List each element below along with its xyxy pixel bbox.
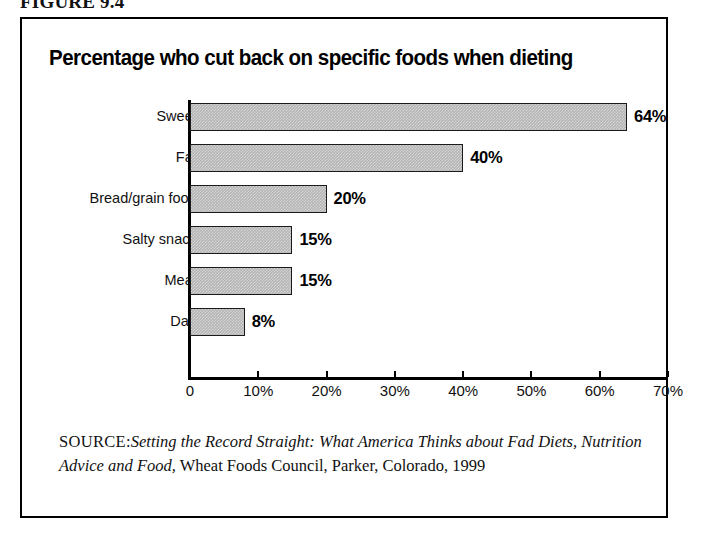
bar-value-label: 15% xyxy=(299,230,331,249)
x-axis-tick-label: 0 xyxy=(186,382,194,399)
bar xyxy=(190,267,292,295)
category-label: Sweets xyxy=(0,108,204,124)
bar-value-label: 8% xyxy=(252,312,275,331)
x-axis-tick-label: 20% xyxy=(312,382,342,399)
x-axis-tick xyxy=(394,371,396,377)
bar-value-label: 15% xyxy=(299,271,331,290)
x-axis-tick-label: 60% xyxy=(585,382,615,399)
bar-chart-plot-area: SweetsFatsBread/grain foodsSalty snacksM… xyxy=(22,86,666,396)
figure-frame: Percentage who cut back on specific food… xyxy=(20,17,668,518)
x-axis-tick xyxy=(530,371,532,377)
chart-title: Percentage who cut back on specific food… xyxy=(49,46,612,71)
x-axis-tick xyxy=(257,371,259,377)
x-axis-tick-label: 70% xyxy=(653,382,683,399)
bar xyxy=(190,185,327,213)
x-axis-tick-label: 30% xyxy=(380,382,410,399)
bar xyxy=(190,144,463,172)
bar xyxy=(190,103,627,131)
x-axis-tick xyxy=(462,371,464,377)
category-label: Bread/grain foods xyxy=(0,190,204,206)
bar-value-label: 20% xyxy=(334,189,366,208)
category-label: Dairy xyxy=(0,313,204,329)
bar xyxy=(190,308,245,336)
x-axis-tick-label: 50% xyxy=(516,382,546,399)
figure-number: FIGURE 9.4 xyxy=(20,0,124,13)
x-axis-tick-label: 40% xyxy=(448,382,478,399)
x-axis-tick-label: 10% xyxy=(243,382,273,399)
bar xyxy=(190,226,292,254)
bar-value-label: 64% xyxy=(634,107,666,126)
x-axis-tick xyxy=(189,371,191,377)
bar-value-label: 40% xyxy=(470,148,502,167)
x-axis-line xyxy=(188,377,666,380)
source-label: SOURCE: xyxy=(59,432,131,451)
x-axis-tick xyxy=(599,371,601,377)
x-axis-tick xyxy=(667,371,669,377)
x-axis-tick xyxy=(326,371,328,377)
category-label: Meats xyxy=(0,272,204,288)
category-label: Fats xyxy=(0,149,204,165)
category-label: Salty snacks xyxy=(0,231,204,247)
source-note: SOURCE:Setting the Record Straight: What… xyxy=(59,430,659,477)
source-publisher: Wheat Foods Council, Parker, Colorado, 1… xyxy=(176,456,485,475)
